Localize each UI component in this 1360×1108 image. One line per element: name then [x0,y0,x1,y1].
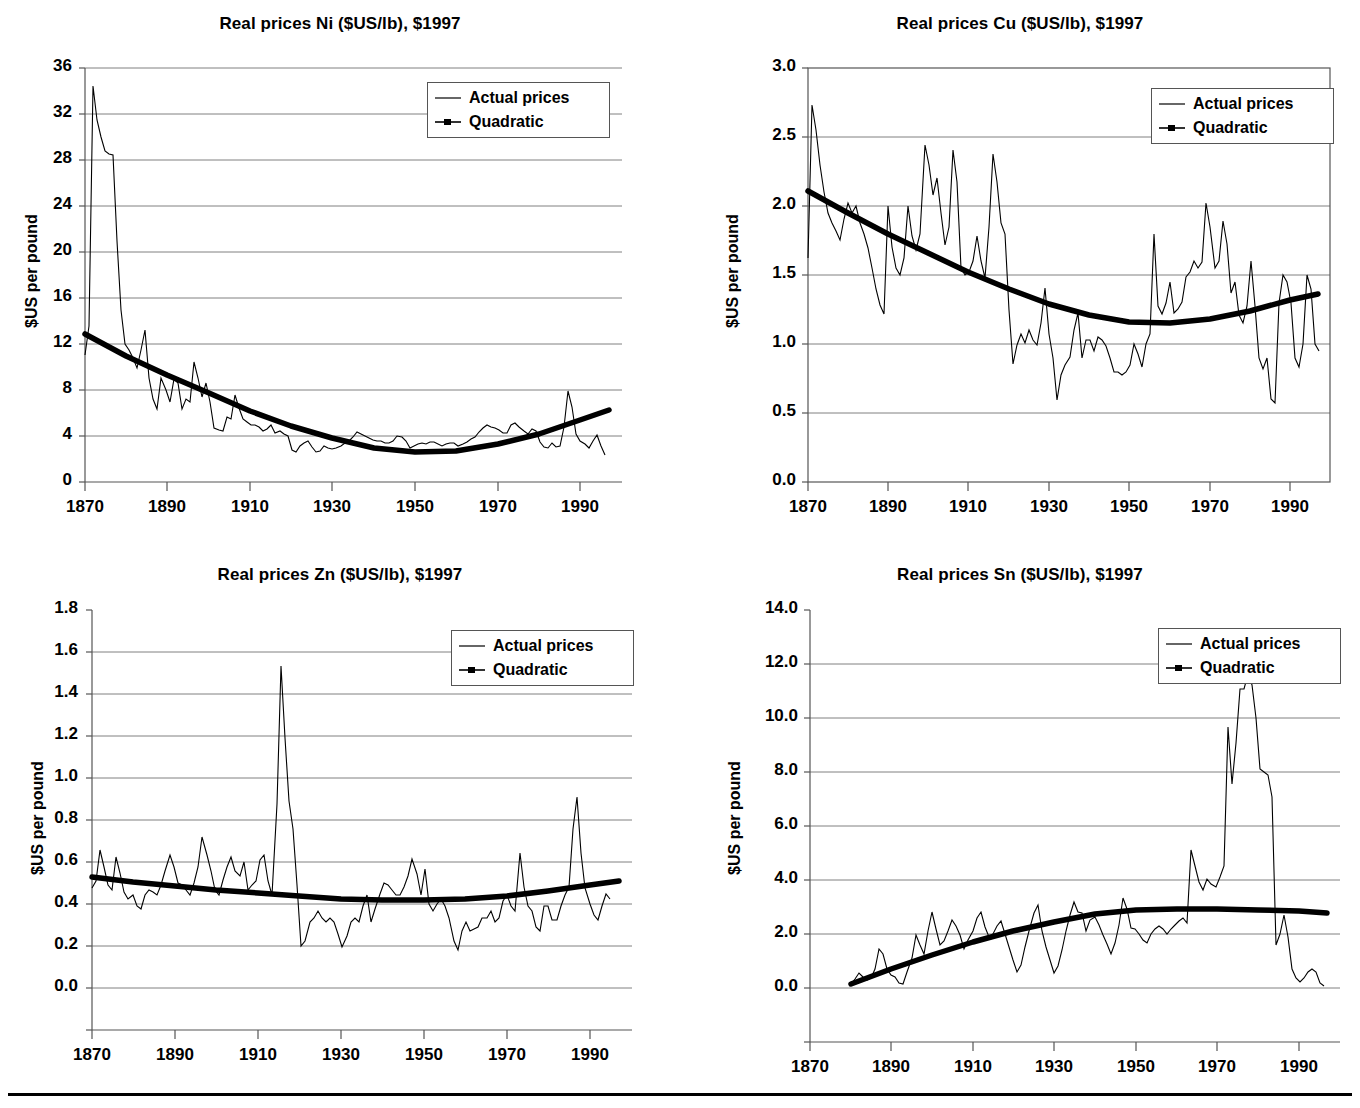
xtick-label: 1910 [218,1045,298,1065]
xtick-label: 1950 [1096,1057,1176,1077]
xtick-label: 1950 [384,1045,464,1065]
series-actual-zn [92,666,610,950]
ytick-label: 0 [26,470,72,490]
line-marker-key-icon [1157,121,1187,135]
xtick-label: 1970 [1177,1057,1257,1077]
ytick-label: 0.0 [20,976,78,996]
xtick-label: 1990 [1259,1057,1339,1077]
ytick-label: 4 [26,424,72,444]
legend-zn[interactable]: Actual prices Quadratic [451,630,634,686]
ytick-label: 12 [26,332,72,352]
line-key-icon [433,91,463,105]
xtick-label: 1890 [135,1045,215,1065]
ytick-label: 0.2 [20,934,78,954]
xtick-label: 1890 [848,497,928,517]
ytick-label: 2.5 [738,125,796,145]
chart-panel-sn: Real prices Sn ($US/lb), $1997 $US per p… [680,554,1360,1108]
legend-label-quadratic: Quadratic [1200,659,1275,677]
ytick-label: 1.2 [20,724,78,744]
legend-label-actual: Actual prices [469,89,569,107]
xtick-label: 1870 [768,497,848,517]
ytick-label: 4.0 [722,868,798,888]
xtick-label: 1870 [770,1057,850,1077]
ytick-label: 32 [26,102,72,122]
ytick-label: 14.0 [722,598,798,618]
ytick-label: 0.8 [20,808,78,828]
xtick-label: 1950 [375,497,455,517]
line-marker-key-icon [457,663,487,677]
xtick-label: 1890 [851,1057,931,1077]
xtick-label: 1910 [933,1057,1013,1077]
line-key-icon [1164,637,1194,651]
ytick-label: 12.0 [722,652,798,672]
xtick-label: 1930 [301,1045,381,1065]
legend-row-quadratic: Quadratic [457,658,625,682]
ytick-label: 1.4 [20,682,78,702]
xtick-label: 1990 [1250,497,1330,517]
ytick-label: 3.0 [738,56,796,76]
figure-page: Real prices Ni ($US/lb), $1997 $US per p… [0,0,1360,1108]
legend-label-quadratic: Quadratic [493,661,568,679]
ytick-label: 8.0 [722,760,798,780]
series-quadratic-zn [92,877,619,900]
ytick-label: 24 [26,194,72,214]
ytick-label: 1.8 [20,598,78,618]
ytick-label: 8 [26,378,72,398]
legend-label-quadratic: Quadratic [1193,119,1268,137]
legend-cu[interactable]: Actual prices Quadratic [1151,88,1334,144]
ytick-label: 1.0 [20,766,78,786]
legend-label-actual: Actual prices [493,637,593,655]
legend-row-actual: Actual prices [1157,92,1325,116]
ytick-label: 10.0 [722,706,798,726]
legend-row-quadratic: Quadratic [1157,116,1325,140]
legend-sn[interactable]: Actual prices Quadratic [1158,628,1341,684]
ytick-label: 1.0 [738,332,796,352]
legend-label-actual: Actual prices [1193,95,1293,113]
line-marker-key-icon [433,115,463,129]
ytick-label: 28 [26,148,72,168]
ytick-label: 0.5 [738,401,796,421]
xtick-label: 1970 [458,497,538,517]
ytick-label: 2.0 [738,194,796,214]
ytick-label: 20 [26,240,72,260]
legend-label-actual: Actual prices [1200,635,1300,653]
line-key-icon [1157,97,1187,111]
xtick-label: 1870 [52,1045,132,1065]
line-marker-key-icon [1164,661,1194,675]
xtick-label: 1970 [467,1045,547,1065]
xtick-label: 1930 [1009,497,1089,517]
xtick-label: 1870 [45,497,125,517]
xtick-label: 1930 [292,497,372,517]
xtick-label: 1890 [127,497,207,517]
xtick-label: 1910 [928,497,1008,517]
ytick-label: 1.6 [20,640,78,660]
xtick-label: 1990 [540,497,620,517]
footer-divider [8,1093,1352,1096]
ytick-label: 0.0 [738,470,796,490]
ytick-label: 1.5 [738,263,796,283]
chart-panel-zn: Real prices Zn ($US/lb), $1997 $US per p… [0,554,680,1108]
ytick-label: 0.4 [20,892,78,912]
legend-ni[interactable]: Actual prices Quadratic [427,82,610,138]
ytick-label: 0.6 [20,850,78,870]
legend-label-quadratic: Quadratic [469,113,544,131]
chart-panel-cu: Real prices Cu ($US/lb), $1997 $US per p… [680,0,1360,554]
ytick-label: 36 [26,56,72,76]
line-key-icon [457,639,487,653]
xtick-label: 1970 [1170,497,1250,517]
series-quadratic-ni [85,334,609,452]
series-actual-cu [808,105,1319,403]
legend-row-actual: Actual prices [457,634,625,658]
xtick-label: 1930 [1014,1057,1094,1077]
series-quadratic-sn [851,909,1327,984]
legend-row-actual: Actual prices [433,86,601,110]
xtick-label: 1910 [210,497,290,517]
ytick-label: 6.0 [722,814,798,834]
legend-row-quadratic: Quadratic [1164,656,1332,680]
ytick-label: 16 [26,286,72,306]
xtick-label: 1950 [1089,497,1169,517]
ytick-label: 2.0 [722,922,798,942]
series-actual-sn [851,674,1324,986]
legend-row-actual: Actual prices [1164,632,1332,656]
legend-row-quadratic: Quadratic [433,110,601,134]
